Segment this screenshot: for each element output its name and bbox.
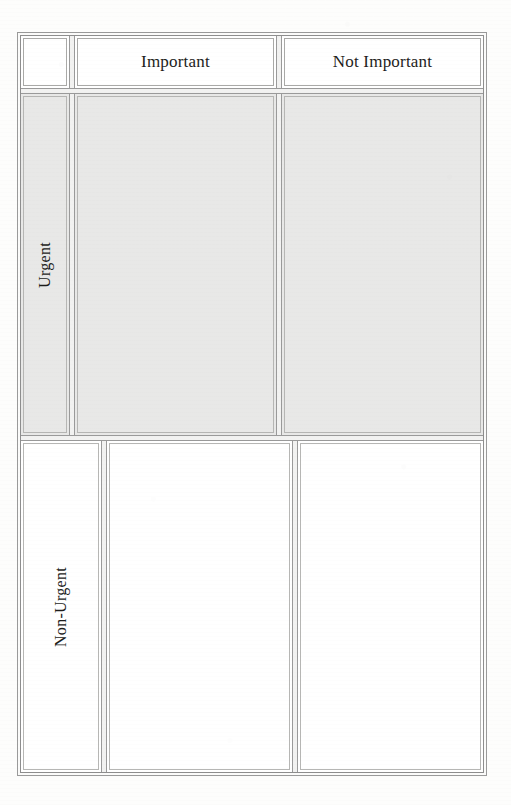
matrix-header-row: Important Not Important <box>21 36 483 88</box>
matrix-corner-cell <box>21 36 69 88</box>
column-header-important: Important <box>141 52 210 72</box>
cell-rule <box>109 443 290 770</box>
column-header-not-important: Not Important <box>333 52 432 72</box>
cell-rule <box>23 38 67 86</box>
quadrant-non-urgent-important[interactable] <box>107 441 292 772</box>
matrix-frame-inner: Important Not Important Urgent <box>20 35 484 773</box>
row-header-non-urgent: Non-Urgent <box>52 566 70 646</box>
row-label-cell-non-urgent: Non-Urgent <box>21 441 101 772</box>
quadrant-urgent-important[interactable] <box>75 94 276 435</box>
cell-rule <box>77 96 274 433</box>
row-label-cell-urgent: Urgent <box>21 94 69 435</box>
matrix-row-urgent: Urgent <box>21 94 483 435</box>
priority-matrix-table: Important Not Important Urgent <box>17 32 487 776</box>
quadrant-urgent-not-important[interactable] <box>282 94 483 435</box>
row-header-urgent: Urgent <box>36 242 54 288</box>
cell-rule <box>300 443 481 770</box>
header-cell-important: Important <box>75 36 276 88</box>
cell-rule <box>284 96 481 433</box>
matrix-row-non-urgent: Non-Urgent <box>21 441 483 772</box>
quadrant-non-urgent-not-important[interactable] <box>298 441 483 772</box>
header-cell-not-important: Not Important <box>282 36 483 88</box>
